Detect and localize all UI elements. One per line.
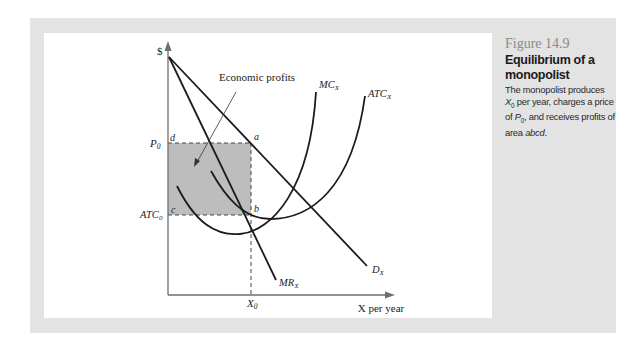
mc-label: MCX: [318, 79, 340, 92]
x0-label: X0: [246, 297, 258, 311]
mr-label: MRX: [278, 277, 299, 290]
x-axis-arrow-icon: [385, 292, 395, 299]
atc-label: ATCX: [367, 88, 392, 101]
figure-caption: Figure 14.9 Equilibrium of a monopolist …: [505, 36, 615, 138]
point-d-label: d: [170, 132, 176, 143]
annotation-label: Economic profits: [219, 71, 295, 83]
figure-title: Equilibrium of a monopolist: [505, 53, 615, 83]
y-axis-arrow-icon: [165, 41, 172, 51]
point-b-label: b: [254, 203, 259, 214]
p0-label: P0: [149, 137, 161, 151]
figure-description: The monopolist produces X0 per year, cha…: [505, 84, 615, 138]
point-a-label: a: [254, 131, 259, 142]
atc0-label: ATC0: [139, 209, 163, 222]
economic-profit-area: [168, 143, 251, 215]
y-axis-label: $: [157, 45, 163, 57]
x-axis-label: X per year: [358, 302, 405, 314]
demand-label: DX: [371, 264, 385, 277]
point-c-label: c: [171, 204, 176, 215]
figure-number: Figure 14.9: [505, 36, 615, 51]
